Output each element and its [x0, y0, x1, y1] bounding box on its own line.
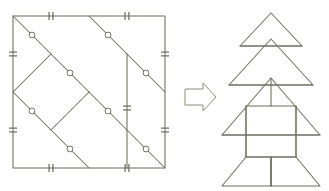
node-d [67, 146, 72, 151]
tree-base-right [271, 157, 320, 186]
node-e [105, 32, 110, 37]
node-a [29, 32, 34, 37]
cut-chevron-left [13, 54, 51, 92]
cut-chevron-mid [51, 92, 89, 130]
node-g [143, 70, 148, 75]
tree-tier-top [240, 13, 302, 46]
node-f [105, 108, 110, 113]
right-tree-group [222, 13, 320, 186]
node-h [143, 146, 148, 151]
tree-base-left [222, 157, 271, 186]
transform-arrow-icon [185, 83, 216, 111]
tree-trunk [246, 106, 296, 157]
square-cut-lines [13, 16, 165, 168]
arrow-group [185, 83, 216, 111]
tree-internal-lines [222, 46, 320, 186]
diagram-canvas [0, 0, 329, 191]
node-c [67, 70, 72, 75]
node-b [29, 108, 34, 113]
dissection-figure [0, 0, 329, 191]
left-square-group [9, 12, 169, 172]
